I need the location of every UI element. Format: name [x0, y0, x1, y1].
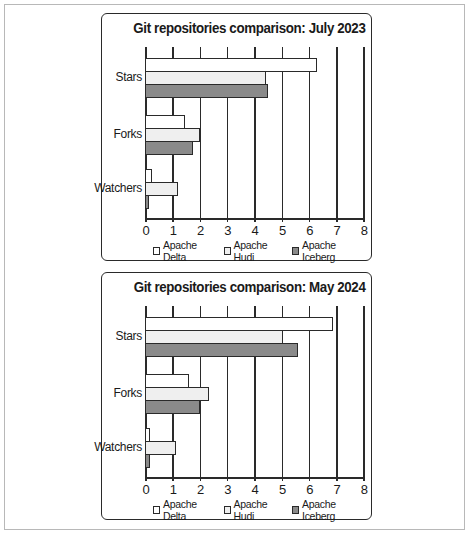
legend-swatch-icon — [153, 247, 160, 255]
category-label-watchers: Watchers — [94, 181, 142, 195]
x-axis — [145, 477, 365, 479]
x-tick-label: 5 — [275, 482, 291, 497]
bar-apache-hudi-stars — [145, 330, 283, 344]
gridline — [363, 47, 365, 222]
bar-apache-delta-stars — [145, 58, 317, 72]
gridline — [282, 47, 284, 222]
category-label-stars: Stars — [115, 70, 142, 84]
legend-item-apache-hudi: Apache Hudi — [224, 239, 280, 263]
legend-swatch-icon — [224, 506, 231, 514]
legend-item-apache-iceberg: Apache Iceberg — [292, 239, 359, 263]
legend-item-apache-delta: Apache Delta — [153, 498, 212, 522]
category-label-watchers: Watchers — [94, 440, 142, 454]
legend-swatch-icon — [224, 247, 231, 255]
bar-apache-iceberg-stars — [145, 84, 268, 98]
gridline — [309, 306, 311, 481]
x-tick-label: 6 — [302, 482, 318, 497]
bar-apache-iceberg-watchers — [145, 195, 149, 209]
legend-item-apache-iceberg: Apache Iceberg — [292, 498, 359, 522]
bar-apache-delta-watchers — [145, 428, 150, 442]
bar-apache-hudi-forks — [145, 128, 200, 142]
x-tick-label: 7 — [329, 482, 345, 497]
bar-apache-delta-forks — [145, 374, 189, 388]
x-tick-label: 1 — [165, 223, 181, 238]
x-tick-label: 2 — [193, 482, 209, 497]
x-tick-label: 8 — [356, 482, 372, 497]
x-tick-label: 3 — [220, 223, 236, 238]
legend-label: Apache Iceberg — [302, 498, 359, 522]
x-tick-label: 8 — [356, 223, 372, 238]
chart-title: Git repositories comparison: May 2024 — [124, 279, 371, 295]
legend-label: Apache Hudi — [234, 239, 281, 263]
gridline — [336, 306, 338, 481]
legend-label: Apache Delta — [163, 498, 212, 522]
chart-may-2024: Git repositories comparison: May 2024 01… — [101, 272, 372, 520]
x-tick-label: 6 — [302, 223, 318, 238]
bar-apache-hudi-watchers — [145, 182, 178, 196]
chart-title: Git repositories comparison: July 2023 — [124, 20, 371, 36]
legend-label: Apache Iceberg — [302, 239, 359, 263]
legend-swatch-icon — [292, 247, 299, 255]
x-tick-label: 7 — [329, 223, 345, 238]
legend-item-apache-delta: Apache Delta — [153, 239, 212, 263]
x-tick-label: 0 — [138, 482, 154, 497]
bar-apache-delta-forks — [145, 115, 185, 129]
category-label-stars: Stars — [115, 329, 142, 343]
bar-apache-delta-watchers — [145, 169, 152, 183]
x-tick-label: 2 — [193, 223, 209, 238]
chart-july-2023: Git repositories comparison: July 2023 0… — [101, 13, 372, 261]
gridline — [363, 306, 365, 481]
x-tick-label: 1 — [165, 482, 181, 497]
bar-apache-iceberg-forks — [145, 400, 200, 414]
bar-apache-hudi-stars — [145, 71, 266, 85]
bar-apache-delta-stars — [145, 317, 333, 331]
legend-label: Apache Delta — [163, 239, 212, 263]
gridline — [336, 47, 338, 222]
x-tick-label: 4 — [247, 223, 263, 238]
x-tick-label: 4 — [247, 482, 263, 497]
bar-apache-iceberg-stars — [145, 343, 298, 357]
bar-apache-iceberg-watchers — [145, 454, 150, 468]
x-tick-label: 0 — [138, 223, 154, 238]
x-axis — [145, 218, 365, 220]
category-label-forks: Forks — [113, 127, 142, 141]
category-label-forks: Forks — [113, 386, 142, 400]
x-tick-label: 5 — [275, 223, 291, 238]
x-tick-label: 3 — [220, 482, 236, 497]
gridline — [309, 47, 311, 222]
bar-apache-hudi-watchers — [145, 441, 176, 455]
bar-apache-hudi-forks — [145, 387, 209, 401]
legend-item-apache-hudi: Apache Hudi — [224, 498, 280, 522]
legend: Apache DeltaApache HudiApache Iceberg — [153, 498, 371, 522]
legend-swatch-icon — [153, 506, 160, 514]
legend: Apache DeltaApache HudiApache Iceberg — [153, 239, 371, 263]
bar-apache-iceberg-forks — [145, 141, 193, 155]
legend-swatch-icon — [292, 506, 299, 514]
legend-label: Apache Hudi — [234, 498, 281, 522]
